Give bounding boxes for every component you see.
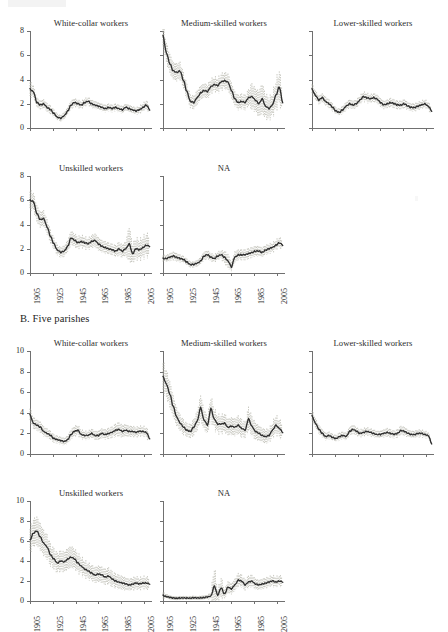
- panel-title: White-collar workers: [30, 338, 152, 348]
- panel-title: Lower-skilled workers: [312, 18, 434, 28]
- x-tick-label: 1925: [56, 288, 65, 304]
- x-tick: [209, 454, 210, 457]
- x-tick: [277, 454, 278, 457]
- x-tick: [403, 454, 404, 457]
- series-graphic: [30, 351, 152, 454]
- x-axis-line: [312, 454, 434, 455]
- panel-a-medium-skilled-workers: Medium-skilled workers: [163, 18, 285, 128]
- y-tick-label: 2: [6, 244, 24, 253]
- x-tick-label: 2005: [147, 288, 156, 304]
- x-tick: [98, 601, 99, 604]
- panel-b-medium-skilled-workers: Medium-skilled workers: [163, 338, 285, 454]
- x-tick: [163, 273, 164, 276]
- x-tick: [53, 128, 54, 131]
- x-tick: [144, 128, 145, 131]
- x-tick: [426, 128, 427, 131]
- x-tick: [358, 128, 359, 131]
- y-tick-label: 0: [6, 268, 24, 277]
- x-tick-label: 1925: [189, 616, 198, 632]
- x-tick-label: 1985: [257, 288, 266, 304]
- x-tick: [231, 454, 232, 457]
- x-tick: [335, 454, 336, 457]
- x-tick: [209, 601, 210, 604]
- x-tick: [121, 454, 122, 457]
- panel-a-white-collar-workers: White-collar workers02468: [30, 18, 152, 128]
- x-tick-label: 1965: [234, 616, 243, 632]
- panel-title: Unskilled workers: [30, 163, 152, 173]
- panel-a-lower-skilled-workers: Lower-skilled workers: [312, 18, 434, 128]
- panel-a-na: NA190519251945196519852005: [163, 163, 285, 273]
- x-tick: [186, 273, 187, 276]
- x-tick: [312, 454, 313, 457]
- panel-b-white-collar-workers: White-collar workers0246810: [30, 338, 152, 454]
- x-axis-line: [163, 454, 285, 455]
- series-graphic: [30, 176, 152, 273]
- trend-line: [312, 415, 432, 444]
- scan-artifact-top: [8, 0, 66, 7]
- series-graphic: [163, 31, 285, 128]
- x-tick: [254, 454, 255, 457]
- x-axis-line: [30, 454, 152, 455]
- x-tick: [312, 128, 313, 131]
- trend-line: [30, 531, 150, 585]
- panel-b-na: NA190519251945196519852005: [163, 488, 285, 601]
- x-tick-label: 1905: [166, 616, 175, 632]
- x-tick: [186, 128, 187, 131]
- x-tick-label: 1985: [257, 616, 266, 632]
- plot-area: 02468: [30, 31, 152, 128]
- y-tick-label: 0: [6, 449, 24, 458]
- panel-title: Unskilled workers: [30, 488, 152, 498]
- x-tick: [53, 273, 54, 276]
- x-tick-label: 1925: [189, 288, 198, 304]
- series-graphic: [30, 31, 152, 128]
- trend-line: [30, 414, 150, 441]
- x-tick: [98, 454, 99, 457]
- x-tick: [163, 128, 164, 131]
- y-tick-label: 0: [6, 123, 24, 132]
- x-tick: [53, 454, 54, 457]
- trend-line: [163, 376, 283, 437]
- y-tick-label: 6: [6, 195, 24, 204]
- x-tick: [98, 128, 99, 131]
- x-tick: [277, 273, 278, 276]
- y-tick-label: 8: [6, 516, 24, 525]
- plot-area: 190519251945196519852005: [163, 501, 285, 601]
- panel-b-unskilled-workers: Unskilled workers02468101905192519451965…: [30, 488, 152, 601]
- series-graphic: [163, 501, 285, 601]
- y-tick-label: 8: [6, 171, 24, 180]
- x-tick: [121, 273, 122, 276]
- y-tick-label: 4: [6, 75, 24, 84]
- x-tick-label: 1925: [56, 616, 65, 632]
- series-graphic: [163, 351, 285, 454]
- x-tick: [186, 454, 187, 457]
- y-tick-label: 8: [6, 26, 24, 35]
- x-tick: [277, 601, 278, 604]
- series-graphic: [312, 351, 434, 454]
- x-tick: [163, 454, 164, 457]
- x-tick: [76, 273, 77, 276]
- x-tick: [163, 601, 164, 604]
- x-tick: [335, 128, 336, 131]
- plot-area: [163, 31, 285, 128]
- x-tick: [53, 601, 54, 604]
- plot-area: [312, 31, 434, 128]
- x-tick-label: 1965: [101, 288, 110, 304]
- trend-line: [163, 580, 283, 599]
- y-tick-label: 4: [6, 408, 24, 417]
- panel-title: Lower-skilled workers: [312, 338, 434, 348]
- y-tick-label: 6: [6, 387, 24, 396]
- x-tick: [209, 128, 210, 131]
- x-tick: [144, 273, 145, 276]
- x-tick-label: 1985: [124, 616, 133, 632]
- x-tick-label: 2005: [147, 616, 156, 632]
- y-tick-label: 6: [6, 50, 24, 59]
- plot-area: 02468190519251945196519852005: [30, 176, 152, 273]
- x-tick: [186, 601, 187, 604]
- x-tick: [254, 601, 255, 604]
- y-tick-label: 2: [6, 576, 24, 585]
- y-tick-label: 2: [6, 99, 24, 108]
- x-axis-line: [163, 128, 285, 129]
- x-tick: [209, 273, 210, 276]
- x-tick-label: 1985: [124, 288, 133, 304]
